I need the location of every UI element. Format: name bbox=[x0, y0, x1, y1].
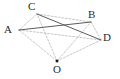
point-markers-group bbox=[56, 60, 59, 63]
dashed-segments-group bbox=[19, 14, 101, 61]
segment-o-a bbox=[19, 30, 57, 61]
vertex-label-o: O bbox=[53, 64, 61, 75]
vertex-label-a: A bbox=[4, 24, 12, 35]
segment-a-b bbox=[19, 22, 91, 30]
segment-c-b bbox=[37, 14, 91, 22]
vertex-label-b: B bbox=[88, 9, 95, 20]
point-marker-o bbox=[56, 60, 59, 63]
segment-o-b bbox=[57, 22, 91, 61]
vertex-label-d: D bbox=[103, 32, 111, 43]
segment-a-c bbox=[19, 14, 37, 30]
geometry-figure: ACBDO bbox=[0, 0, 120, 79]
segment-b-d bbox=[91, 22, 101, 40]
segment-o-d bbox=[57, 40, 101, 61]
vertex-label-c: C bbox=[28, 1, 35, 12]
